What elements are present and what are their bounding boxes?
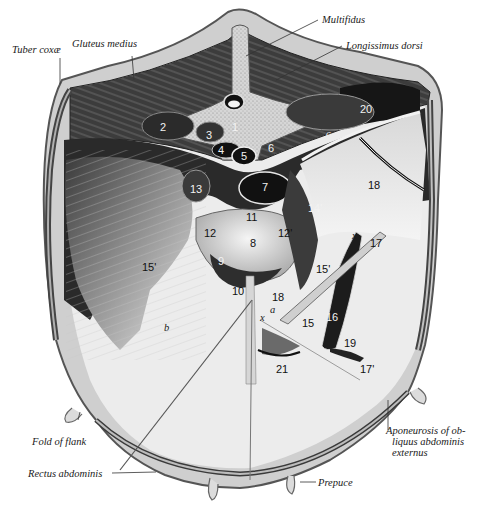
num-21: 21 <box>276 364 288 375</box>
num-4: 4 <box>218 145 224 156</box>
letter-a: a <box>270 304 275 315</box>
label-gluteus-medius: Gluteus medius <box>72 38 137 49</box>
num-1: 1 <box>232 122 238 133</box>
num-3: 3 <box>206 130 212 141</box>
letter-x1: x <box>260 312 265 323</box>
num-7: 7 <box>262 182 268 193</box>
letter-x2: x <box>352 230 357 241</box>
num-15b: 15' <box>316 264 330 275</box>
label-aponeurosis-1: Aponeurosis of ob- <box>386 425 466 436</box>
num-15: 15 <box>302 318 314 329</box>
num-13: 13 <box>190 184 202 195</box>
num-15a: 15' <box>142 262 156 273</box>
label-tuber-coxae: Tuber coxæ <box>12 44 61 55</box>
num-18a: 18 <box>368 180 380 191</box>
num-6: 6 <box>268 143 274 154</box>
num-12a: 12 <box>204 228 216 239</box>
num-16: 16 <box>326 312 338 323</box>
num-2: 2 <box>160 122 166 133</box>
label-prepuce: Prepuce <box>318 477 353 488</box>
num-20: 20 <box>360 104 372 115</box>
label-rectus-abdominis: Rectus abdominis <box>28 468 102 479</box>
num-8: 8 <box>250 238 256 249</box>
num-17: 17 <box>370 238 382 249</box>
num-10: 10 <box>232 286 244 297</box>
num-19: 19 <box>344 338 356 349</box>
num-14: 14' <box>308 203 322 214</box>
letter-b: b <box>164 322 169 333</box>
label-aponeurosis-3: externus <box>392 447 428 458</box>
letter-c: c <box>326 128 331 139</box>
label-aponeurosis-2: liquus abdominis <box>392 436 464 447</box>
label-fold-of-flank: Fold of flank <box>32 436 86 447</box>
num-12b: 12' <box>278 228 292 239</box>
label-longissimus-dorsi: Longissimus dorsi <box>346 40 423 51</box>
num-18b: 18 <box>272 292 284 303</box>
num-9: 9 <box>218 256 224 267</box>
num-17b: 17' <box>360 364 374 375</box>
num-11: 11 <box>246 212 257 223</box>
num-5: 5 <box>241 151 247 162</box>
label-multifidus: Multifidus <box>322 14 365 25</box>
